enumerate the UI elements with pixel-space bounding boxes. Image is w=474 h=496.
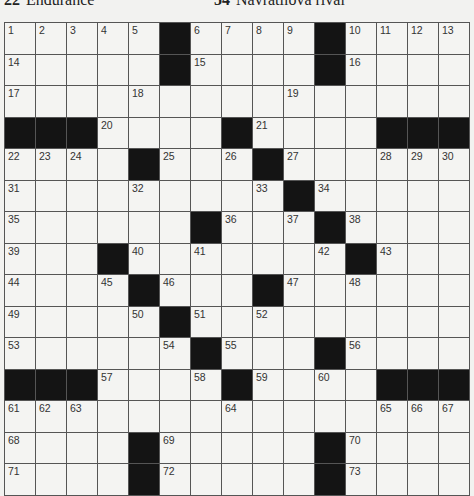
grid-cell[interactable] — [408, 244, 439, 276]
grid-cell[interactable]: 14 — [5, 55, 36, 87]
grid-cell[interactable] — [439, 244, 470, 276]
grid-cell[interactable]: 42 — [315, 244, 346, 276]
grid-cell[interactable]: 73 — [346, 464, 377, 496]
grid-cell[interactable] — [377, 433, 408, 465]
grid-cell[interactable] — [67, 55, 98, 87]
grid-cell[interactable]: 34 — [315, 181, 346, 213]
grid-cell[interactable] — [315, 86, 346, 118]
grid-cell[interactable]: 44 — [5, 275, 36, 307]
grid-cell[interactable] — [253, 212, 284, 244]
grid-cell[interactable] — [439, 181, 470, 213]
grid-cell[interactable] — [284, 118, 315, 150]
grid-cell[interactable] — [160, 244, 191, 276]
grid-cell[interactable] — [315, 149, 346, 181]
grid-cell[interactable] — [346, 401, 377, 433]
grid-cell[interactable] — [284, 433, 315, 465]
grid-cell[interactable] — [98, 307, 129, 339]
grid-cell[interactable] — [98, 338, 129, 370]
grid-cell[interactable]: 27 — [284, 149, 315, 181]
grid-cell[interactable]: 23 — [36, 149, 67, 181]
grid-cell[interactable] — [36, 275, 67, 307]
grid-cell[interactable]: 24 — [67, 149, 98, 181]
grid-cell[interactable] — [408, 86, 439, 118]
grid-cell[interactable]: 70 — [346, 433, 377, 465]
grid-cell[interactable]: 6 — [191, 23, 222, 55]
grid-cell[interactable] — [377, 338, 408, 370]
grid-cell[interactable]: 64 — [222, 401, 253, 433]
grid-cell[interactable]: 31 — [5, 181, 36, 213]
grid-cell[interactable]: 35 — [5, 212, 36, 244]
grid-cell[interactable] — [36, 86, 67, 118]
grid-cell[interactable] — [98, 149, 129, 181]
grid-cell[interactable]: 13 — [439, 23, 470, 55]
grid-cell[interactable] — [191, 118, 222, 150]
grid-cell[interactable] — [253, 433, 284, 465]
grid-cell[interactable]: 41 — [191, 244, 222, 276]
grid-cell[interactable] — [191, 181, 222, 213]
grid-cell[interactable] — [67, 433, 98, 465]
grid-cell[interactable] — [98, 86, 129, 118]
grid-cell[interactable] — [98, 401, 129, 433]
grid-cell[interactable] — [408, 181, 439, 213]
grid-cell[interactable]: 57 — [98, 370, 129, 402]
grid-cell[interactable]: 56 — [346, 338, 377, 370]
grid-cell[interactable]: 50 — [129, 307, 160, 339]
grid-cell[interactable]: 52 — [253, 307, 284, 339]
grid-cell[interactable] — [67, 275, 98, 307]
grid-cell[interactable]: 48 — [346, 275, 377, 307]
grid-cell[interactable] — [67, 338, 98, 370]
grid-cell[interactable]: 45 — [98, 275, 129, 307]
grid-cell[interactable] — [408, 307, 439, 339]
grid-cell[interactable]: 51 — [191, 307, 222, 339]
grid-cell[interactable] — [67, 181, 98, 213]
grid-cell[interactable] — [36, 433, 67, 465]
grid-cell[interactable]: 37 — [284, 212, 315, 244]
grid-cell[interactable] — [253, 86, 284, 118]
grid-cell[interactable] — [315, 307, 346, 339]
grid-cell[interactable]: 40 — [129, 244, 160, 276]
grid-cell[interactable] — [222, 433, 253, 465]
grid-cell[interactable] — [36, 338, 67, 370]
grid-cell[interactable]: 25 — [160, 149, 191, 181]
grid-cell[interactable] — [377, 55, 408, 87]
grid-cell[interactable] — [284, 307, 315, 339]
grid-cell[interactable]: 59 — [253, 370, 284, 402]
grid-cell[interactable]: 49 — [5, 307, 36, 339]
grid-cell[interactable] — [346, 370, 377, 402]
grid-cell[interactable] — [408, 212, 439, 244]
grid-cell[interactable]: 7 — [222, 23, 253, 55]
grid-cell[interactable]: 39 — [5, 244, 36, 276]
grid-cell[interactable]: 29 — [408, 149, 439, 181]
grid-cell[interactable]: 61 — [5, 401, 36, 433]
grid-cell[interactable]: 67 — [439, 401, 470, 433]
grid-cell[interactable] — [129, 401, 160, 433]
grid-cell[interactable] — [439, 338, 470, 370]
grid-cell[interactable] — [160, 86, 191, 118]
grid-cell[interactable]: 65 — [377, 401, 408, 433]
grid-cell[interactable]: 28 — [377, 149, 408, 181]
grid-cell[interactable]: 71 — [5, 464, 36, 496]
grid-cell[interactable]: 63 — [67, 401, 98, 433]
grid-cell[interactable] — [284, 401, 315, 433]
grid-cell[interactable]: 11 — [377, 23, 408, 55]
grid-cell[interactable]: 58 — [191, 370, 222, 402]
grid-cell[interactable] — [377, 307, 408, 339]
grid-cell[interactable] — [160, 212, 191, 244]
grid-cell[interactable] — [346, 149, 377, 181]
grid-cell[interactable] — [160, 118, 191, 150]
grid-cell[interactable] — [36, 244, 67, 276]
grid-cell[interactable] — [129, 370, 160, 402]
grid-cell[interactable] — [222, 55, 253, 87]
grid-cell[interactable] — [129, 55, 160, 87]
grid-cell[interactable]: 1 — [5, 23, 36, 55]
grid-cell[interactable] — [284, 338, 315, 370]
grid-cell[interactable]: 69 — [160, 433, 191, 465]
grid-cell[interactable] — [222, 181, 253, 213]
grid-cell[interactable] — [408, 433, 439, 465]
grid-cell[interactable] — [67, 464, 98, 496]
grid-cell[interactable] — [36, 307, 67, 339]
grid-cell[interactable] — [36, 181, 67, 213]
grid-cell[interactable] — [160, 370, 191, 402]
grid-cell[interactable]: 26 — [222, 149, 253, 181]
grid-cell[interactable] — [346, 307, 377, 339]
